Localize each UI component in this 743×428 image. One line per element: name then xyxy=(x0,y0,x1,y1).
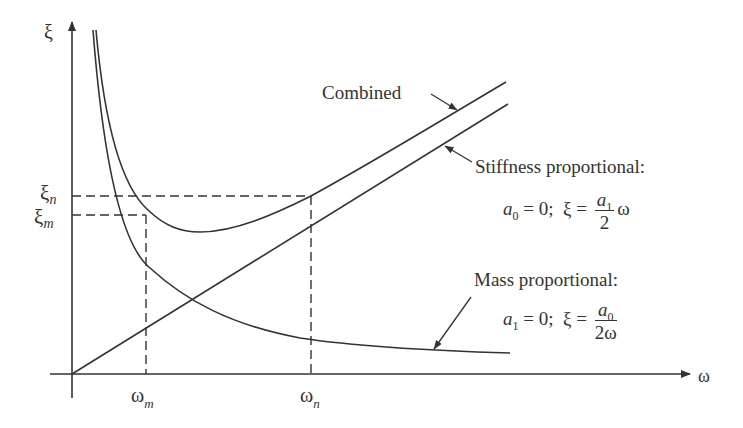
subscript: n xyxy=(49,192,56,207)
guide-lines xyxy=(72,196,311,374)
subscript: 1 xyxy=(513,319,519,333)
stiffness-pointer-arrow xyxy=(445,146,472,162)
coef-a: a xyxy=(597,189,607,210)
x-tick-omega-n: ωn xyxy=(300,385,320,405)
subscript: n xyxy=(313,396,320,411)
omega-symbol: ω xyxy=(131,384,144,406)
mass-label: Mass proportional: xyxy=(474,270,618,289)
x-tick-omega-m: ωm xyxy=(131,385,154,405)
subscript: 0 xyxy=(513,209,519,223)
xi-symbol: ξ xyxy=(34,205,43,229)
subscript: m xyxy=(144,396,153,411)
y-axis-label: ξ xyxy=(44,22,53,42)
mass-pointer-arrow xyxy=(434,297,471,349)
omega-symbol: ω xyxy=(617,198,630,219)
denominator: 2ω xyxy=(595,321,617,342)
fraction: a02ω xyxy=(595,300,617,342)
stiffness-proportional-line xyxy=(72,104,508,374)
stiffness-label: Stiffness proportional: xyxy=(475,157,645,176)
subscript: 0 xyxy=(607,310,613,324)
x-axis-label: ω xyxy=(698,367,710,385)
numerator: a1 xyxy=(595,190,615,211)
y-tick-xi-n: ξn xyxy=(40,183,56,204)
condition-text: = 0; xyxy=(519,198,564,219)
xi-symbol: ξ xyxy=(40,181,49,205)
mass-proportional-curve xyxy=(93,30,510,353)
coef-a: a xyxy=(503,308,513,329)
condition-text: = 0; xyxy=(519,308,564,329)
subscript: m xyxy=(43,216,53,231)
equals: = xyxy=(571,198,591,219)
annotation-arrows xyxy=(431,94,472,349)
combined-curve xyxy=(96,30,506,232)
damping-diagram xyxy=(0,0,743,428)
combined-pointer-arrow xyxy=(431,94,457,110)
curves xyxy=(72,30,510,374)
mass-formula: a1 = 0; ξ = a02ω xyxy=(503,300,620,342)
omega-symbol: ω xyxy=(300,384,313,406)
y-tick-xi-m: ξm xyxy=(34,207,54,228)
equals: = xyxy=(571,308,591,329)
denominator: 2 xyxy=(595,211,615,232)
stiffness-formula: a0 = 0; ξ = a12ω xyxy=(503,190,630,232)
combined-label: Combined xyxy=(322,83,401,102)
numerator: a0 xyxy=(595,300,617,321)
coef-a: a xyxy=(503,198,513,219)
fraction: a12 xyxy=(595,190,615,232)
subscript: 1 xyxy=(606,200,612,214)
